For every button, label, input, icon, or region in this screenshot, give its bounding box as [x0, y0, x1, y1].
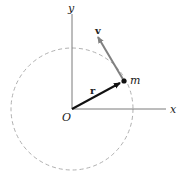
x-axis-label: x [170, 103, 177, 116]
origin-label: O [62, 111, 71, 124]
velocity-vector-v [98, 37, 124, 81]
velocity-vector-label: v [94, 25, 102, 36]
y-axis-label: y [67, 2, 75, 15]
particle-dot [121, 78, 126, 83]
position-vector-label: r [90, 85, 96, 96]
particle-label: m [130, 74, 140, 87]
position-vector-r [72, 83, 120, 109]
circular-motion-diagram: y x O m r v [0, 0, 184, 178]
